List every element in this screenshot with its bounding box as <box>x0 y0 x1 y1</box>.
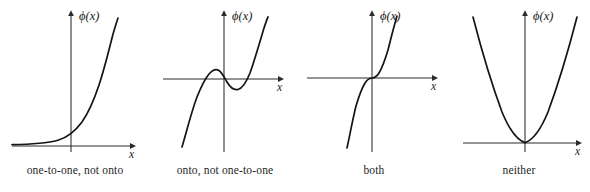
panel-caption-3: neither <box>448 163 590 177</box>
plot-svg-0: ϕ(x) x <box>0 0 150 162</box>
plot-svg-3: ϕ(x) x <box>448 0 590 162</box>
y-axis-arrow-icon <box>369 10 375 16</box>
x-axis-label-2: x <box>430 80 437 92</box>
y-axis-label-0: ϕ(x) <box>79 9 99 23</box>
x-axis-label-0: x <box>128 148 135 160</box>
y-axis-label-1: ϕ(x) <box>232 9 252 23</box>
y-axis-arrow-icon <box>522 10 528 16</box>
panel-neither: ϕ(x) x neither <box>448 0 590 192</box>
panel-one-to-one-not-onto: ϕ(x) x one-to-one, not onto <box>0 0 150 192</box>
curve-cubic-two-turning-points <box>182 17 268 147</box>
y-axis-arrow-icon <box>221 10 227 16</box>
plot-svg-2: ϕ(x) x <box>300 0 448 162</box>
plot-area-2: ϕ(x) x <box>300 0 448 162</box>
curve-exponential <box>12 18 118 145</box>
y-axis-arrow-icon <box>68 10 74 16</box>
x-axis-label-3: x <box>574 145 581 157</box>
panel-caption-0: one-to-one, not onto <box>0 163 150 177</box>
panel-caption-2: both <box>300 163 448 177</box>
plot-area-0: ϕ(x) x <box>0 0 150 162</box>
plot-svg-1: ϕ(x) x <box>150 0 300 162</box>
x-axis-label-1: x <box>276 81 283 93</box>
plot-area-3: ϕ(x) x <box>448 0 590 162</box>
function-classification-figure: ϕ(x) x one-to-one, not onto ϕ(x) x onto,… <box>0 0 590 192</box>
plot-area-1: ϕ(x) x <box>150 0 300 162</box>
panel-onto-not-one-to-one: ϕ(x) x onto, not one-to-one <box>150 0 300 192</box>
panel-caption-1: onto, not one-to-one <box>150 163 300 177</box>
y-axis-label-2: ϕ(x) <box>380 9 400 23</box>
y-axis-label-3: ϕ(x) <box>533 9 553 23</box>
panel-both: ϕ(x) x both <box>300 0 448 192</box>
